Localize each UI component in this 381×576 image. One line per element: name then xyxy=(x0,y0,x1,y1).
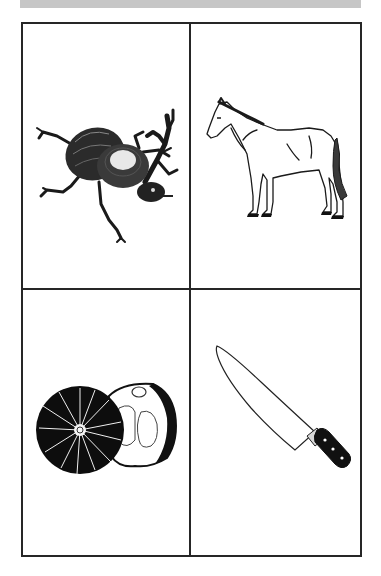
pumpkin-icon xyxy=(23,290,189,555)
top-banner xyxy=(20,0,361,8)
grid-cell-beetle[interactable]: beetle xyxy=(23,24,191,290)
beetle-icon xyxy=(23,24,189,288)
grid-cell-knife[interactable]: knife xyxy=(191,290,360,555)
knife-icon xyxy=(191,290,360,555)
grid-cell-horse[interactable]: horse xyxy=(191,24,360,290)
horse-icon xyxy=(191,24,360,288)
picture-grid: beetle xyxy=(21,22,362,557)
grid-cell-pumpkin[interactable]: pumpkin xyxy=(23,290,191,555)
